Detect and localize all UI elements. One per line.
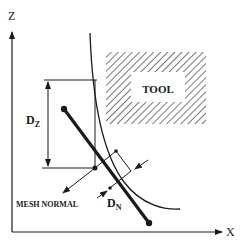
- curve-contact-point: [114, 149, 118, 153]
- x-axis-label: X: [226, 225, 235, 239]
- mesh-normal-arrow: [63, 168, 95, 193]
- mesh-line-end-point: [146, 220, 152, 226]
- dn-arrow-lower: [97, 191, 107, 198]
- tool-label: TOOL: [142, 83, 174, 95]
- dn-label: DN: [107, 196, 122, 212]
- mesh-line-start-point: [61, 106, 67, 112]
- z-axis-label: Z: [8, 9, 15, 23]
- dn-arrow-upper: [135, 160, 148, 169]
- mesh-line-foot-point: [108, 186, 112, 190]
- dn-offset-line: [116, 151, 131, 171]
- diagram-canvas: Z X TOOL DZ MESH NORMAL DN: [0, 0, 240, 243]
- mesh-normal-label: MESH NORMAL: [16, 200, 78, 209]
- dz-label: DZ: [26, 113, 40, 129]
